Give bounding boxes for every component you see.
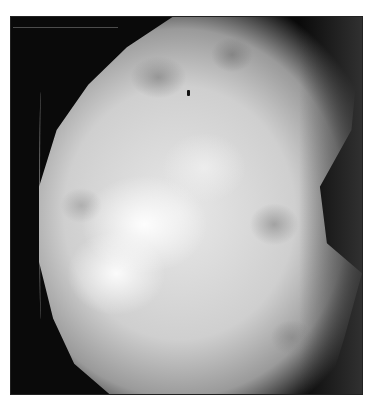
skin-line — [39, 92, 43, 318]
chest-wall-shadow — [299, 17, 362, 394]
top-edge-line — [13, 27, 118, 28]
dark-marker — [187, 90, 190, 96]
mammogram-image — [10, 16, 363, 395]
